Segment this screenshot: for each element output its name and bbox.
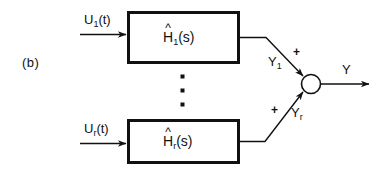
diagram-vector-layer	[0, 0, 381, 180]
block-h1-suffix: (s)	[178, 29, 194, 45]
input-1-suffix: (t)	[98, 12, 110, 27]
output-y-label: Y	[342, 63, 351, 76]
signal-yr-label: Yr	[291, 106, 303, 119]
signal-yr-base: Y	[291, 105, 300, 120]
input-1-label: U1(t)	[84, 13, 111, 26]
block-h1-label: ^H1(s)	[163, 30, 194, 44]
vertical-ellipsis-dots	[181, 75, 185, 107]
input-r-label: Ur(t)	[84, 122, 109, 135]
input-r-subscript: r	[93, 128, 96, 138]
block-h1-subscript: 1	[173, 37, 178, 47]
summing-junction-circle	[302, 75, 321, 94]
input-r-base: U	[84, 121, 93, 136]
block-h1-base-wrap: ^H	[163, 30, 173, 44]
panel-label: (b)	[22, 56, 39, 69]
summing-junction-plus-top: +	[293, 46, 300, 58]
input-1-base: U	[84, 12, 93, 27]
signal-yr-subscript: r	[300, 112, 303, 122]
input-r-suffix: (t)	[96, 121, 108, 136]
block-h1-hat-accent: ^	[165, 22, 171, 34]
block-hr-hat-accent: ^	[165, 126, 171, 138]
block-hr-suffix: (s)	[176, 133, 192, 149]
block-diagram-figure: (b) U1(t) Ur(t) ^H1(s) ^Hr(s) Y1 Yr + + …	[0, 0, 381, 180]
signal-y1-label: Y1	[268, 55, 282, 68]
block-hr-base-wrap: ^H	[163, 134, 173, 148]
signal-y1-subscript: 1	[277, 61, 282, 71]
summing-junction-plus-bottom: +	[271, 104, 278, 116]
signal-y1-base: Y	[268, 54, 277, 69]
block-hr-subscript: r	[173, 141, 176, 151]
block-hr-label: ^Hr(s)	[163, 134, 192, 148]
input-1-subscript: 1	[93, 19, 98, 29]
